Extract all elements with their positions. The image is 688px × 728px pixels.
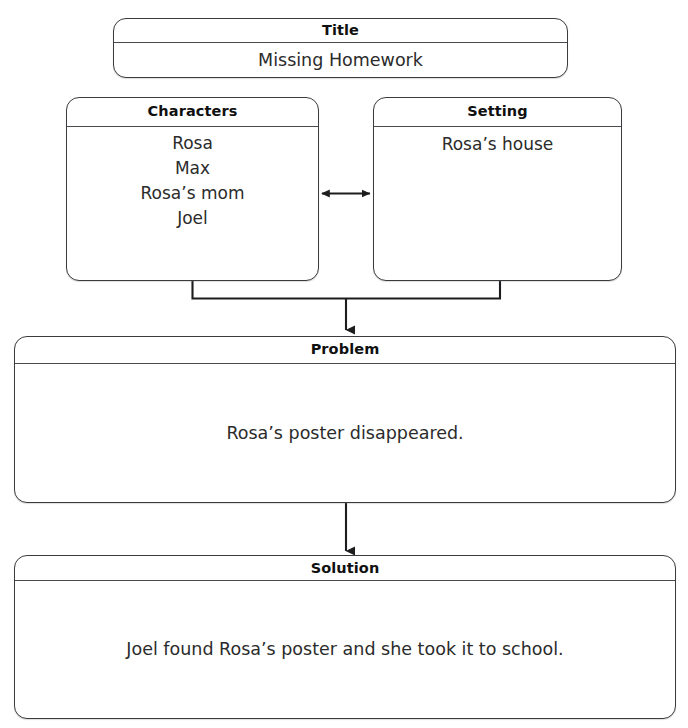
node-characters-body[interactable]: Rosa Max Rosa’s mom Joel	[67, 127, 318, 231]
character-item: Joel	[67, 206, 318, 231]
node-setting-body[interactable]: Rosa’s house	[374, 127, 621, 157]
character-item: Max	[67, 156, 318, 181]
character-item: Rosa	[67, 131, 318, 156]
node-solution[interactable]: Solution Joel found Rosa’s poster and sh…	[14, 555, 676, 719]
node-title-header: Title	[114, 19, 567, 43]
node-title-body[interactable]: Missing Homework	[114, 43, 567, 77]
node-solution-body[interactable]: Joel found Rosa’s poster and she took it…	[15, 581, 675, 717]
connector-bracket-to-problem	[193, 281, 501, 330]
story-map-page: Title Missing Homework Characters Rosa M…	[0, 0, 688, 728]
character-item: Rosa’s mom	[67, 181, 318, 206]
node-problem-body[interactable]: Rosa’s poster disappeared.	[15, 364, 675, 502]
node-solution-header: Solution	[15, 556, 675, 581]
node-title[interactable]: Title Missing Homework	[113, 18, 568, 78]
node-setting-header: Setting	[374, 98, 621, 127]
node-problem[interactable]: Problem Rosa’s poster disappeared.	[14, 336, 676, 503]
node-characters[interactable]: Characters Rosa Max Rosa’s mom Joel	[66, 97, 319, 281]
node-problem-header: Problem	[15, 337, 675, 364]
node-setting[interactable]: Setting Rosa’s house	[373, 97, 622, 281]
node-characters-header: Characters	[67, 98, 318, 127]
